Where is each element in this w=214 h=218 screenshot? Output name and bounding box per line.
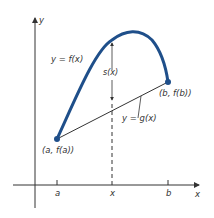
- curve-label: y = f(x): [50, 54, 83, 64]
- tick-x-label: x: [109, 188, 116, 198]
- tick-b-label: b: [166, 188, 171, 198]
- point-b-label: (b, f(b)): [159, 88, 191, 98]
- diagram-canvas: y x y = f(x) s(x) (b, f(b)) (a, f(a)) y …: [0, 0, 214, 218]
- x-axis-label: x: [194, 189, 201, 199]
- y-axis-label: y: [38, 15, 45, 25]
- gap-label: s(x): [103, 68, 118, 77]
- point-a: [54, 136, 60, 142]
- chord-label: y = g(x): [121, 113, 157, 123]
- chord-line: [57, 82, 168, 139]
- point-a-label: (a, f(a)): [42, 145, 74, 155]
- point-b: [165, 79, 171, 85]
- tick-a-label: a: [55, 188, 60, 198]
